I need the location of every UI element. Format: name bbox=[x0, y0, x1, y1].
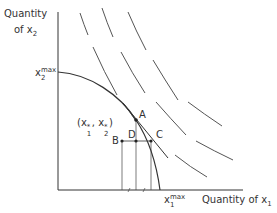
indifference-curves bbox=[80, 8, 233, 177]
y-axis-label-line2: of x2 bbox=[14, 24, 37, 37]
optimum-label: (x*1, x*2) bbox=[77, 117, 113, 128]
point-a-label: A bbox=[139, 109, 146, 120]
x2-max-sub: 2 bbox=[41, 73, 45, 84]
x-axis-label: Quantity of x1 bbox=[202, 194, 272, 207]
y-axis-label-line1: Quantity bbox=[4, 8, 47, 19]
point-c-dot bbox=[149, 139, 152, 142]
optimum-mid: , x bbox=[92, 117, 104, 128]
x1-max-label: xmax1 bbox=[164, 194, 185, 207]
y-axis-label-sub: 2 bbox=[33, 30, 37, 38]
point-b-label: B bbox=[112, 135, 119, 146]
x-axis-label-sub: 1 bbox=[267, 200, 271, 208]
diagram-canvas bbox=[0, 0, 277, 213]
indifference-curve-3 bbox=[128, 12, 146, 50]
x-axis-label-prefix: Quantity of x bbox=[202, 194, 267, 205]
x1-max-sub: 1 bbox=[170, 200, 174, 211]
point-c-label: C bbox=[156, 129, 163, 140]
y-axis-label-prefix: of x bbox=[14, 24, 33, 35]
point-b-dot bbox=[120, 139, 123, 142]
indifference-curve-2 bbox=[102, 8, 113, 37]
point-a-dot bbox=[134, 118, 138, 122]
point-d-label: D bbox=[128, 129, 136, 140]
optimum-close: ) bbox=[109, 117, 113, 128]
indifference-curve-1 bbox=[80, 13, 88, 35]
optimum-sub1: 1 bbox=[87, 129, 91, 140]
optimum-open: (x bbox=[77, 117, 87, 128]
x2-max-label: xmax2 bbox=[35, 67, 56, 80]
production-possibility-curve bbox=[58, 72, 160, 190]
optimum-sub2: 2 bbox=[104, 129, 108, 140]
